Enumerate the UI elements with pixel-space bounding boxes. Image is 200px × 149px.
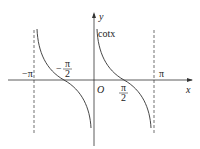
cot-branch-right <box>97 29 151 128</box>
function-label: cotx <box>98 28 115 39</box>
tick-half-pi-den: 2 <box>121 92 126 103</box>
cot-branch-left <box>37 29 91 128</box>
y-axis-label: y <box>98 11 104 22</box>
x-axis-label: x <box>185 84 191 95</box>
tick-neg-pi: −π <box>22 68 33 79</box>
cot-graph: y x O cotx −π π − π 2 π 2 <box>0 0 200 149</box>
tick-neg-half-pi-sign: − <box>56 63 62 74</box>
tick-neg-half-pi-den: 2 <box>65 68 70 79</box>
origin-label: O <box>97 84 104 95</box>
y-axis-arrow-icon <box>92 12 96 18</box>
x-axis-arrow-icon <box>187 78 193 82</box>
tick-pi: π <box>159 68 164 79</box>
